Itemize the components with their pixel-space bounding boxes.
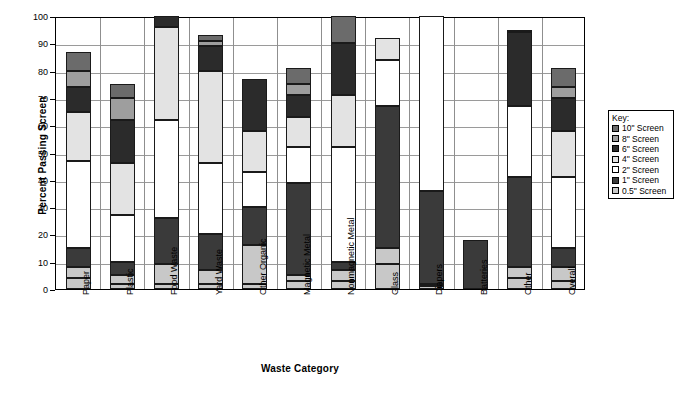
bar-segment[interactable] xyxy=(551,177,576,248)
y-axis-tick-label: 50 xyxy=(14,149,48,159)
legend-item[interactable]: 1" Screen xyxy=(612,175,671,185)
bar-segment[interactable] xyxy=(110,84,135,98)
legend-swatch xyxy=(612,156,619,163)
legend-swatch xyxy=(612,177,619,184)
y-axis-tick-label: 80 xyxy=(14,67,48,77)
bar-segment[interactable] xyxy=(331,43,356,95)
stacked-bar[interactable] xyxy=(419,16,444,289)
bar-segment[interactable] xyxy=(507,177,532,267)
y-axis-tick-label: 10 xyxy=(14,258,48,268)
bar-segment[interactable] xyxy=(375,38,400,60)
bar-segment[interactable] xyxy=(551,68,576,87)
stacked-bar[interactable] xyxy=(110,84,135,289)
bar-segment[interactable] xyxy=(331,95,356,147)
bar-segment[interactable] xyxy=(66,112,91,161)
category-separator xyxy=(144,18,145,289)
bar-segment[interactable] xyxy=(198,163,223,234)
legend-swatch xyxy=(612,125,619,132)
bar-series-group xyxy=(56,18,584,289)
bar-segment[interactable] xyxy=(419,16,444,191)
bar-segment[interactable] xyxy=(66,248,91,267)
x-axis-tick-label: Other Organic xyxy=(258,238,268,295)
legend-label: 10" Screen xyxy=(622,123,664,133)
x-axis-title: Waste Category xyxy=(0,363,600,374)
legend-label: 4" Screen xyxy=(622,154,659,164)
bar-segment[interactable] xyxy=(242,79,267,131)
bar-segment[interactable] xyxy=(551,98,576,131)
bar-segment[interactable] xyxy=(66,161,91,248)
x-axis-tick-label: Other xyxy=(523,272,533,295)
bar-segment[interactable] xyxy=(375,248,400,264)
category-separator xyxy=(189,18,190,289)
bar-segment[interactable] xyxy=(66,52,91,71)
bar-segment[interactable] xyxy=(286,84,311,95)
bar-segment[interactable] xyxy=(375,106,400,248)
x-axis-tick-label: Magnetic Metal xyxy=(302,234,312,295)
y-axis-tick-label: 40 xyxy=(14,176,48,186)
legend-item[interactable]: 2" Screen xyxy=(612,165,671,175)
category-separator xyxy=(454,18,455,289)
bar-segment[interactable] xyxy=(110,98,135,120)
bar-segment[interactable] xyxy=(286,68,311,84)
y-axis-tick-label: 100 xyxy=(14,12,48,22)
category-separator xyxy=(365,18,366,289)
bar-segment[interactable] xyxy=(507,106,532,177)
legend-item[interactable]: 8" Screen xyxy=(612,133,671,143)
category-separator xyxy=(498,18,499,289)
bar-segment[interactable] xyxy=(110,215,135,261)
category-separator xyxy=(100,18,101,289)
legend-label: 6" Screen xyxy=(622,144,659,154)
legend-item[interactable]: 0.5" Screen xyxy=(612,185,671,195)
legend-item[interactable]: 10" Screen xyxy=(612,123,671,133)
x-axis-tick-label: Nonmagnetic Metal xyxy=(346,217,356,295)
chart-container: Percent Passing Screen Waste Category 01… xyxy=(0,0,680,394)
legend-label: 1" Screen xyxy=(622,175,659,185)
category-separator xyxy=(321,18,322,289)
category-separator xyxy=(409,18,410,289)
bar-segment[interactable] xyxy=(66,71,91,87)
y-axis-tick-label: 90 xyxy=(14,39,48,49)
stacked-bar[interactable] xyxy=(375,38,400,289)
legend-swatch xyxy=(612,187,619,194)
bar-segment[interactable] xyxy=(66,87,91,112)
x-axis-tick-label: Paper xyxy=(81,271,91,295)
legend-swatch xyxy=(612,145,619,152)
bar-segment[interactable] xyxy=(154,27,179,120)
x-axis-tick-label: Glass xyxy=(390,272,400,295)
bar-segment[interactable] xyxy=(551,87,576,98)
bar-segment[interactable] xyxy=(242,172,267,207)
bar-segment[interactable] xyxy=(551,131,576,177)
stacked-bar[interactable] xyxy=(507,30,532,289)
stacked-bar[interactable] xyxy=(66,52,91,290)
bar-segment[interactable] xyxy=(286,147,311,182)
bar-segment[interactable] xyxy=(110,163,135,215)
bar-segment[interactable] xyxy=(198,46,223,71)
bar-segment[interactable] xyxy=(286,117,311,147)
x-axis-tick-label: Food Waste xyxy=(169,247,179,295)
x-axis-tick-label: Yard Waste xyxy=(214,249,224,295)
legend-item[interactable]: 6" Screen xyxy=(612,144,671,154)
legend-swatch xyxy=(612,135,619,142)
bar-segment[interactable] xyxy=(286,95,311,117)
bar-segment[interactable] xyxy=(551,248,576,267)
bar-segment[interactable] xyxy=(507,32,532,106)
category-separator xyxy=(277,18,278,289)
stacked-bar[interactable] xyxy=(551,68,576,289)
bar-segment[interactable] xyxy=(154,16,179,27)
bar-segment[interactable] xyxy=(331,16,356,43)
bar-segment[interactable] xyxy=(375,60,400,106)
bar-segment[interactable] xyxy=(242,131,267,172)
x-axis-tick-label: Plastic xyxy=(125,268,135,295)
legend-item[interactable]: 4" Screen xyxy=(612,154,671,164)
bar-segment[interactable] xyxy=(154,120,179,218)
y-axis-tick-label: 60 xyxy=(14,121,48,131)
x-axis-tick-label: Batteries xyxy=(479,259,489,295)
legend-label: 8" Screen xyxy=(622,134,659,144)
bar-segment[interactable] xyxy=(110,120,135,164)
y-axis-tick-label: 0 xyxy=(14,285,48,295)
legend-label: 0.5" Screen xyxy=(622,186,666,196)
bar-segment[interactable] xyxy=(198,71,223,164)
legend-swatch xyxy=(612,166,619,173)
y-axis-tick-mark xyxy=(50,290,55,291)
y-axis-tick-label: 70 xyxy=(14,94,48,104)
